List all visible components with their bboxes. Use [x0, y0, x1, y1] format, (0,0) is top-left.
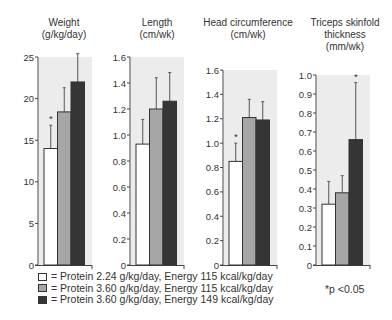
y-tick-label: 1.4	[113, 78, 126, 89]
y-tick-label: 0.9	[299, 89, 312, 100]
y-tick-label: 0	[121, 260, 126, 271]
bar	[256, 120, 270, 265]
chart-title: Head circumference	[203, 17, 293, 28]
bar	[44, 149, 58, 265]
y-tick-label: 1.6	[113, 52, 126, 63]
y-tick-label: 0.8	[299, 108, 312, 119]
legend-swatch-white	[38, 273, 47, 281]
y-tick-label: 0.6	[299, 146, 312, 157]
legend-swatch-gray	[38, 284, 47, 292]
legend: = Protein 2.24 g/kg/day, Energy 115 kcal…	[38, 271, 273, 306]
y-tick-label: 0.8	[206, 162, 219, 173]
chart-title: (g/kg/day)	[42, 29, 86, 40]
y-tick-label: 0.2	[113, 234, 126, 245]
y-tick-label: 0.7	[299, 127, 312, 138]
y-tick-label: 5	[29, 218, 34, 229]
bar	[71, 82, 85, 265]
y-tick-label: 10	[23, 176, 34, 187]
y-tick-label: 20	[23, 93, 34, 104]
chart-panel-1: Weight(g/kg/day)0510152025*	[23, 17, 92, 271]
y-tick-label: 1.0	[299, 70, 312, 81]
chart-title: Length	[142, 17, 173, 28]
y-tick-label: 0.2	[206, 235, 219, 246]
chart-title: (cm/wk)	[140, 29, 175, 40]
chart-panel-3: Head circumference(cm/wk)00.20.40.60.81.…	[203, 17, 293, 271]
legend-item-1: = Protein 2.24 g/kg/day, Energy 115 kcal…	[38, 271, 273, 283]
y-tick-label: 25	[23, 52, 34, 63]
y-tick-label: 0	[214, 260, 219, 271]
significance-note: *p <0.05	[325, 283, 364, 295]
chart-title: Weight	[49, 17, 80, 28]
y-tick-label: 1.4	[206, 89, 219, 100]
y-tick-label: 0.4	[113, 208, 126, 219]
chart-title: Triceps skinfold	[310, 17, 379, 28]
significance-asterisk: *	[354, 71, 358, 82]
chart-title: thickness	[324, 29, 366, 40]
bar	[322, 204, 336, 265]
legend-swatch-dark	[38, 296, 47, 304]
y-tick-label: 1.2	[206, 113, 219, 124]
chart-panel-4: Triceps skinfoldthickness(mm/wk)00.10.20…	[299, 17, 380, 271]
bar	[163, 101, 177, 265]
y-tick-label: 1.0	[113, 130, 126, 141]
bar	[336, 193, 350, 265]
legend-label: = Protein 2.24 g/kg/day, Energy 115 kcal…	[51, 271, 273, 283]
y-tick-label: 0.8	[113, 156, 126, 167]
bar	[349, 140, 363, 265]
chart-title: (cm/wk)	[231, 29, 266, 40]
y-tick-label: 1.2	[113, 104, 126, 115]
y-tick-label: 0	[307, 260, 312, 271]
y-tick-label: 0.3	[299, 203, 312, 214]
y-tick-label: 0.2	[299, 222, 312, 233]
legend-label: = Protein 3.60 g/kg/day, Energy 149 kcal…	[51, 294, 273, 306]
y-tick-label: 1.6	[206, 65, 219, 76]
y-tick-label: 0.6	[206, 186, 219, 197]
bar	[229, 161, 243, 265]
chart-panel-2: Length(cm/wk)00.20.40.60.81.01.21.41.6	[113, 17, 184, 271]
y-tick-label: 0	[29, 260, 34, 271]
y-tick-label: 0.6	[113, 182, 126, 193]
y-tick-label: 0.5	[299, 165, 312, 176]
legend-item-3: = Protein 3.60 g/kg/day, Energy 149 kcal…	[38, 294, 273, 306]
bar	[243, 118, 257, 265]
y-tick-label: 0.4	[206, 211, 219, 222]
y-tick-label: 15	[23, 135, 34, 146]
bar	[150, 109, 164, 265]
y-tick-label: 0.1	[299, 241, 312, 252]
bar	[58, 112, 72, 265]
y-tick-label: 1.0	[206, 138, 219, 149]
significance-asterisk: *	[49, 113, 53, 124]
significance-asterisk: *	[234, 131, 238, 142]
chart-title: (mm/wk)	[326, 41, 364, 52]
bar	[136, 144, 150, 265]
y-tick-label: 0.4	[299, 184, 312, 195]
